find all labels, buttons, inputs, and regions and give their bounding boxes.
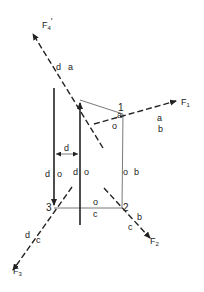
force-line-f3 xyxy=(13,187,72,270)
label-right-o: o xyxy=(123,167,128,177)
label-f3-d: d xyxy=(25,230,30,240)
force-line-f4prime xyxy=(33,34,103,148)
label-dimension-d: d xyxy=(64,143,69,153)
label-mid-o: o xyxy=(84,167,89,177)
label-mid-d: d xyxy=(73,167,78,177)
label-f1-b: b xyxy=(158,124,163,134)
label-f4-d: d xyxy=(56,62,61,72)
label-left-o: o xyxy=(57,169,62,179)
label-f3-c: c xyxy=(36,235,41,245)
label-top-o: o xyxy=(112,121,117,131)
label-f4-a: a xyxy=(68,62,73,72)
label-bottom-o: o xyxy=(93,197,98,207)
force-line-f1 xyxy=(94,101,176,124)
label-f1-a: a xyxy=(157,113,162,123)
label-left-d: d xyxy=(45,169,50,179)
label-f2-c: c xyxy=(128,222,133,232)
force-label-f1: F1 xyxy=(181,97,191,108)
node-2: 2 xyxy=(123,202,129,213)
force-label-f4prime: F4′ xyxy=(42,16,53,31)
label-f2-b: b xyxy=(137,212,142,222)
verticals xyxy=(54,88,80,225)
force-line-f2 xyxy=(104,188,150,238)
label-top-a: a xyxy=(117,110,122,120)
force-label-f2: F2 xyxy=(150,236,160,247)
force-label-f3: F3 xyxy=(13,266,23,277)
string-1-to-2 xyxy=(122,114,123,208)
force-polygon-diagram: F4′ F1 F2 F3 1 2 3 d a a o a b o b b c o… xyxy=(0,0,204,292)
node-3: 3 xyxy=(46,202,52,213)
label-bottom-c: c xyxy=(93,209,98,219)
label-right-b: b xyxy=(134,167,139,177)
